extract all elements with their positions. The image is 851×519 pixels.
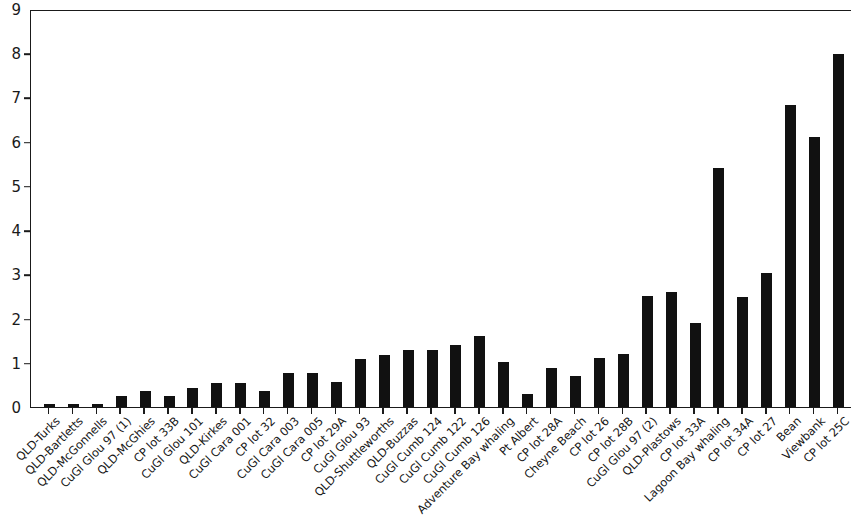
bar: [809, 137, 820, 408]
bar: [498, 362, 509, 408]
x-axis-labels: QLD-TurksQLD-BartlettsQLD-McGonnellsCuGl…: [30, 414, 851, 519]
bar: [307, 373, 318, 408]
bars-layer: [31, 11, 851, 408]
bar: [713, 168, 724, 408]
y-tick-label: 7: [11, 91, 21, 106]
bar: [211, 383, 222, 408]
y-tick-label: 4: [11, 224, 21, 239]
plot-area: [30, 10, 851, 408]
bar: [666, 292, 677, 408]
bar: [690, 323, 701, 408]
bar: [427, 350, 438, 408]
bar: [833, 54, 844, 408]
bar: [761, 273, 772, 408]
y-tick-label: 2: [11, 312, 21, 327]
y-tick-label: 1: [11, 356, 21, 371]
y-axis: 0123456789: [0, 0, 30, 419]
bar: [642, 296, 653, 408]
bar: [259, 391, 270, 408]
y-tick-label: 3: [11, 268, 21, 283]
bar: [785, 105, 796, 408]
bar: [474, 336, 485, 408]
bar: [331, 382, 342, 408]
bar: [379, 355, 390, 408]
bar: [235, 383, 246, 408]
bar: [570, 376, 581, 408]
y-tick-label: 8: [11, 47, 21, 62]
y-tick-label: 0: [11, 401, 21, 416]
bar: [283, 373, 294, 408]
bar: [546, 368, 557, 408]
bar: [403, 350, 414, 408]
y-tick-label: 9: [11, 3, 21, 18]
bar: [187, 388, 198, 408]
bar-chart: 0123456789 QLD-TurksQLD-BartlettsQLD-McG…: [0, 0, 851, 519]
bar: [618, 354, 629, 408]
y-tick-label: 6: [11, 135, 21, 150]
bar: [737, 297, 748, 408]
bar: [355, 359, 366, 408]
bar: [594, 358, 605, 408]
bar: [140, 391, 151, 408]
y-tick-label: 5: [11, 179, 21, 194]
bar: [450, 345, 461, 408]
